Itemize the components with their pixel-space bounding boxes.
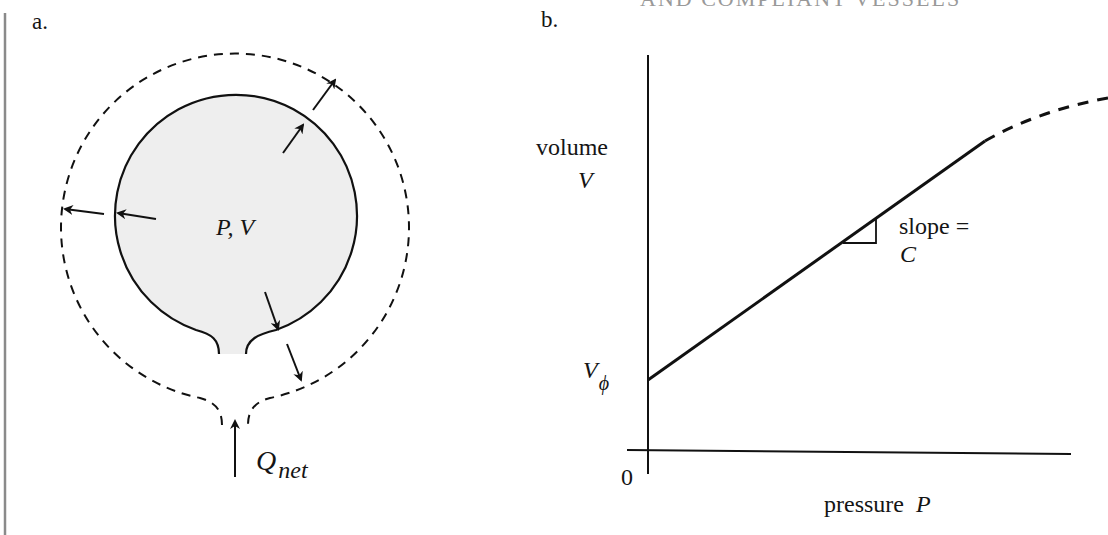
expansion-arrow-icon xyxy=(287,344,301,380)
y-axis-label: volume xyxy=(536,135,608,159)
panel-b-label: b. xyxy=(541,8,558,31)
saturation-curve xyxy=(985,98,1108,141)
flow-subscript: net xyxy=(278,457,307,483)
intercept-subscript: ϕ xyxy=(599,372,609,394)
pressure-volume-label: P, V xyxy=(216,215,254,239)
expansion-arrow-icon xyxy=(65,209,104,214)
panel-a-label: a. xyxy=(32,10,48,33)
expansion-arrow-icon xyxy=(313,80,335,110)
compliance-line xyxy=(648,141,985,380)
y-axis-symbol: V xyxy=(578,168,593,192)
origin-label: 0 xyxy=(621,465,633,489)
x-axis-label-text: pressure xyxy=(824,491,904,517)
flow-symbol: Q xyxy=(256,445,276,476)
x-axis-symbol: P xyxy=(916,491,931,517)
x-axis xyxy=(627,450,1071,454)
x-axis-label: pressure P xyxy=(824,492,931,516)
intercept-label: Vϕ xyxy=(583,358,609,382)
flow-label: Qnet xyxy=(256,447,308,475)
slope-label: slope = xyxy=(899,214,969,238)
slope-symbol: C xyxy=(900,242,916,266)
figure-canvas xyxy=(0,0,1108,535)
intercept-symbol: V xyxy=(583,357,598,383)
